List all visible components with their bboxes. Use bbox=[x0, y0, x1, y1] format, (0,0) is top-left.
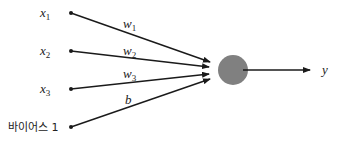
input-bias: 바이어스 1 b bbox=[8, 79, 210, 134]
weight-label-w1: w1 bbox=[123, 16, 136, 33]
input-label-x2: x2 bbox=[39, 43, 50, 60]
perceptron-diagram: x1 w1 x2 w2 x3 w3 바이어스 1 b y bbox=[0, 0, 348, 142]
bias-label: 바이어스 1 bbox=[8, 121, 59, 134]
weight-label-w3: w3 bbox=[123, 66, 137, 83]
weight-label-b: b bbox=[125, 92, 132, 107]
edge-x1 bbox=[71, 13, 210, 62]
input-x2: x2 w2 bbox=[39, 43, 209, 67]
input-label-x3: x3 bbox=[39, 81, 51, 98]
input-label-x1: x1 bbox=[39, 5, 50, 22]
edge-x2 bbox=[71, 51, 209, 67]
output-label-y: y bbox=[320, 62, 328, 77]
weight-label-w2: w2 bbox=[123, 43, 136, 60]
input-x3: x3 w3 bbox=[39, 66, 209, 98]
